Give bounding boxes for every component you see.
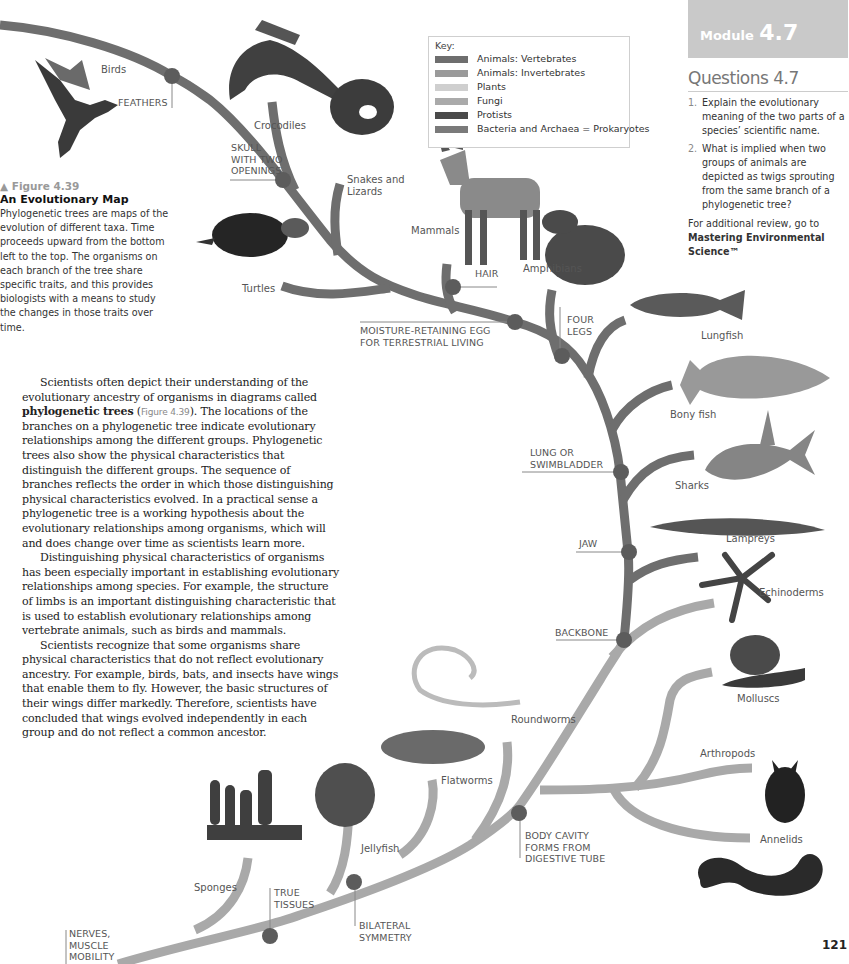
legend-swatch: [435, 84, 468, 91]
legend-label: Animals: Invertebrates: [477, 67, 585, 78]
legend-title: Key:: [435, 40, 455, 51]
figure-number: ▲ Figure 4.39: [0, 180, 200, 193]
question-number: 2.: [688, 142, 697, 156]
taxon-label-annelids: Annelids: [760, 834, 803, 846]
figure-reference[interactable]: Figure 4.39: [141, 407, 190, 417]
sponge-image: [207, 770, 302, 840]
taxon-label-turtles: Turtles: [242, 283, 275, 295]
taxon-label-crocodiles: Crocodiles: [254, 120, 306, 132]
question-number: 1.: [688, 96, 697, 110]
body-paragraph-2: Distinguishing physical characteristics …: [22, 551, 340, 639]
body-paragraph-1: Scientists often depict their understand…: [22, 376, 340, 551]
questions-list: 1. Explain the evolutionary meaning of t…: [688, 96, 848, 216]
legend-swatch: [435, 126, 468, 133]
flatworm-image: [381, 730, 485, 764]
crocodile-image: [229, 20, 345, 100]
key-term: phylogenetic trees: [22, 405, 133, 418]
trait-label-hair: HAIR: [475, 268, 498, 280]
legend-label: Fungi: [477, 95, 503, 106]
figure-caption-text: Phylogenetic trees are maps of the evolu…: [0, 207, 170, 335]
taxon-label-birds: Birds: [101, 64, 126, 76]
bony-fish-image: [680, 356, 830, 405]
trait-label-bilateral-symmetry: BILATERAL SYMMETRY: [359, 920, 412, 943]
taxon-label-echinoderms: Echinoderms: [759, 587, 824, 599]
taxon-label-arthropods: Arthropods: [700, 748, 755, 760]
annelid-image: [698, 854, 823, 896]
shark-image: [705, 410, 815, 480]
text-run: (: [133, 405, 141, 418]
trait-label-feathers: FEATHERS: [118, 97, 168, 109]
questions-title: Questions 4.7: [688, 68, 848, 92]
question-text: What is implied when two groups of anima…: [702, 143, 835, 210]
question-item: 2. What is implied when two groups of an…: [688, 142, 848, 212]
trait-label-jaw: JAW: [579, 538, 597, 550]
taxon-label-molluscs: Molluscs: [737, 693, 780, 705]
lungfish-image: [630, 290, 745, 320]
text-run: Scientists often depict their understand…: [22, 376, 317, 404]
roundworm-image: [414, 648, 520, 705]
legend-label: Animals: Vertebrates: [477, 53, 576, 64]
taxon-label-mammals: Mammals: [411, 225, 459, 237]
legend-swatch: [435, 98, 468, 105]
module-number: 4.7: [759, 20, 798, 45]
taxon-label-roundworms: Roundworms: [511, 714, 576, 726]
legend-label: Bacteria and Archaea = Prokaryotes: [477, 123, 649, 134]
taxon-label-sharks: Sharks: [675, 480, 709, 492]
question-item: 1. Explain the evolutionary meaning of t…: [688, 96, 848, 138]
jellyfish-image: [315, 763, 375, 827]
trait-label-skull: SKULL WITH TWO OPENINGS: [231, 142, 283, 177]
trait-label-true-tissues: TRUE TISSUES: [274, 887, 314, 910]
trait-label-backbone: BACKBONE: [555, 627, 608, 639]
taxon-label-lampreys: Lampreys: [726, 533, 775, 545]
legend-key: Key: Animals: Vertebrates Animals: Inver…: [428, 36, 630, 148]
trait-label-egg: MOISTURE-RETAINING EGG FOR TERRESTRIAL L…: [360, 325, 491, 348]
module-word: Module: [700, 28, 754, 43]
text-run: ). The locations of the branches on a ph…: [22, 405, 333, 549]
beetle-image: [765, 760, 805, 823]
trait-label-body-cavity: BODY CAVITY FORMS FROM DIGESTIVE TUBE: [525, 830, 605, 865]
review-note: For additional review, go to Mastering E…: [688, 217, 849, 259]
legend-swatch: [435, 70, 468, 77]
taxon-label-sponges: Sponges: [194, 882, 237, 894]
body-text: Scientists often depict their understand…: [22, 376, 340, 741]
legend-label: Plants: [477, 81, 506, 92]
turtle-image: [196, 213, 309, 257]
body-paragraph-3: Scientists recognize that some organisms…: [22, 639, 340, 741]
snail-image: [722, 635, 805, 688]
figure-title: An Evolutionary Map: [0, 193, 200, 207]
taxon-label-jellyfish: Jellyfish: [361, 843, 399, 855]
review-link[interactable]: Mastering Environmental Science™: [688, 232, 825, 257]
legend-swatch: [435, 112, 468, 119]
taxon-label-amphibians: Amphibians: [523, 263, 582, 275]
trait-label-nerves: NERVES, MUSCLE MOBILITY: [69, 928, 115, 963]
taxon-label-bony-fish: Bony fish: [670, 409, 716, 421]
trait-label-lung: LUNG OR SWIMBLADDER: [530, 447, 603, 470]
review-prefix: For additional review, go to: [688, 218, 819, 229]
taxon-label-lungfish: Lungfish: [701, 330, 743, 342]
legend-label: Protists: [477, 109, 512, 120]
figure-caption: ▲ Figure 4.39 An Evolutionary Map Phylog…: [0, 180, 200, 335]
taxon-label-snakes-and-lizards: Snakes and Lizards: [347, 174, 405, 198]
taxon-label-flatworms: Flatworms: [441, 775, 493, 787]
trait-label-four-legs: FOUR LEGS: [567, 314, 594, 337]
question-text: Explain the evolutionary meaning of the …: [702, 97, 845, 136]
module-header: Module 4.7: [688, 0, 848, 58]
legend-swatch: [435, 56, 468, 63]
page-number: 121: [822, 938, 847, 952]
